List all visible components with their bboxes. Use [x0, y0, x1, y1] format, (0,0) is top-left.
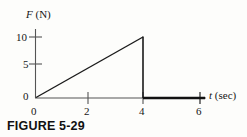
- y-tick-label-5: 5: [23, 59, 29, 70]
- x-axis-unit: (sec): [215, 89, 236, 101]
- force-time-plot: [0, 0, 247, 137]
- y-tick-label-0: 0: [23, 91, 29, 102]
- y-axis-symbol: F: [26, 8, 33, 20]
- series-force-ramp: [36, 37, 143, 98]
- figure-caption: FIGURE 5-29: [7, 119, 85, 133]
- y-axis-unit: (N): [35, 8, 50, 20]
- x-tick-label-2: 2: [84, 106, 90, 117]
- y-axis-title: F (N): [26, 9, 51, 20]
- x-tick-label-4: 4: [139, 106, 145, 117]
- y-tick-label-10: 10: [16, 32, 27, 43]
- x-tick-label-6: 6: [196, 106, 202, 117]
- x-tick-label-0: 0: [31, 106, 37, 117]
- figure-container: F (N) t (sec) 10 5 0 0 2 4 6 FIGURE 5-29: [0, 0, 247, 137]
- x-axis-title: t (sec): [209, 90, 236, 101]
